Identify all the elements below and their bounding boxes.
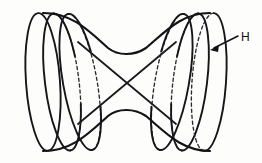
ring-1-group bbox=[21, 12, 65, 152]
ring-6-group bbox=[187, 12, 231, 152]
ring-3-arc-bottom bbox=[85, 107, 108, 150]
label-H-callout: H bbox=[210, 30, 250, 52]
label-H-arrowhead bbox=[210, 45, 219, 52]
ring-3-arc-top bbox=[68, 11, 91, 54]
ring-5-outline bbox=[182, 14, 216, 153]
ring-1-outline bbox=[21, 12, 65, 152]
hyperboloid-figure: H bbox=[0, 0, 262, 163]
label-H-text: H bbox=[241, 30, 250, 44]
hyperboloid-diagram-canvas: H bbox=[0, 0, 262, 163]
ring-2-outline bbox=[37, 14, 71, 153]
silhouette-bottom-curve bbox=[43, 110, 210, 151]
